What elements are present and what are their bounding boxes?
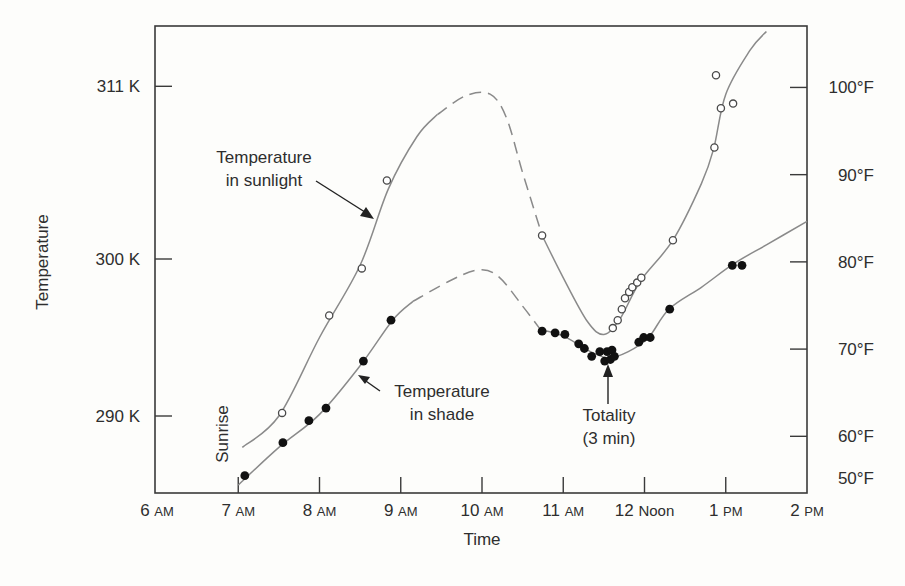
shade-data-point [322, 404, 331, 413]
sunlight-data-point [358, 265, 365, 272]
sunlight-data-point [383, 177, 390, 184]
y-left-tick-label: 300 K [96, 250, 141, 269]
sunlight-data-point [539, 232, 546, 239]
shade-data-point [738, 261, 747, 270]
sunlight-curve-dashed [437, 92, 542, 235]
sunlight-arrow [316, 181, 368, 214]
shade-data-point [610, 352, 619, 361]
shade-data-point [665, 305, 674, 314]
y-right-tick-label: 50°F [838, 469, 874, 488]
y-axis-right-ticks: 100°F90°F80°F70°F60°F50°F [790, 78, 874, 488]
shade-data-point [580, 344, 589, 353]
shade-annotation: Temperature in shade [358, 375, 490, 424]
y-left-tick-label: 311 K [97, 77, 141, 96]
x-tick-label: 8 AM [303, 501, 337, 520]
plot-frame [155, 26, 807, 493]
sunlight-data-point [712, 72, 719, 79]
y-left-tick-label: 290 K [96, 407, 141, 426]
sunlight-label-line2: in sunlight [226, 171, 303, 190]
x-tick-label: 11 AM [542, 501, 584, 520]
series-points [240, 72, 746, 480]
y-right-tick-label: 90°F [838, 166, 874, 185]
y-axis-left-ticks: 311 K300 K290 K [96, 77, 172, 426]
shade-data-point [305, 416, 314, 425]
sunlight-data-point [614, 317, 621, 324]
shade-data-point [587, 352, 596, 361]
x-tick-label: 1 PM [709, 501, 743, 520]
x-tick-label: 9 AM [384, 501, 418, 520]
sunlight-data-point [717, 105, 724, 112]
y-right-tick-label: 80°F [838, 253, 874, 272]
sunlight-data-point [609, 325, 616, 332]
sunlight-label-line1: Temperature [216, 148, 311, 167]
shade-label-line2: in shade [410, 405, 474, 424]
sunlight-data-point [730, 100, 737, 107]
shade-data-point [538, 327, 547, 336]
y-right-tick-label: 100°F [828, 78, 874, 97]
x-tick-label: 6 AM [140, 501, 174, 520]
shade-data-point [387, 316, 396, 325]
x-tick-label: 2 PM [790, 501, 824, 520]
shade-data-point [551, 328, 560, 337]
x-tick-label: 10 AM [460, 501, 503, 520]
sunlight-data-point [669, 237, 676, 244]
sunlight-curve-solid [542, 31, 766, 334]
sunlight-data-point [711, 144, 718, 151]
totality-label-line1: Totality [583, 406, 636, 425]
series-curves [238, 31, 807, 485]
sunrise-label: Sunrise [213, 405, 232, 463]
y-axis-title: Temperature [33, 214, 52, 309]
shade-data-point [728, 261, 737, 270]
y-right-tick-label: 60°F [838, 427, 874, 446]
shade-curve-solid [238, 301, 413, 485]
x-tick-label: 12 Noon [615, 501, 675, 520]
shade-data-point [359, 357, 368, 366]
totality-annotation: Totality (3 min) [583, 364, 636, 448]
sunlight-annotation: Temperature in sunlight [216, 148, 374, 219]
shade-data-point [240, 471, 249, 480]
shade-label-line1: Temperature [394, 382, 489, 401]
y-right-tick-label: 70°F [838, 340, 874, 359]
x-axis-title: Time [463, 530, 500, 549]
sunlight-data-point [326, 312, 333, 319]
x-tick-label: 7 AM [221, 501, 255, 520]
sunlight-data-point [618, 306, 625, 313]
sunlight-data-point [279, 409, 286, 416]
shade-data-point [561, 330, 570, 339]
x-axis-ticks: 6 AM7 AM8 AM9 AM10 AM11 AM12 Noon1 PM2 P… [140, 477, 824, 520]
temperature-chart: 6 AM7 AM8 AM9 AM10 AM11 AM12 Noon1 PM2 P… [0, 0, 905, 586]
sunlight-arrowhead-icon [360, 207, 374, 219]
sunlight-data-point [638, 274, 645, 281]
shade-curve-dashed [413, 270, 541, 330]
shade-data-point [279, 438, 288, 447]
shade-data-point [646, 333, 655, 342]
totality-arrowhead-icon [603, 364, 613, 377]
totality-label-line2: (3 min) [583, 429, 636, 448]
